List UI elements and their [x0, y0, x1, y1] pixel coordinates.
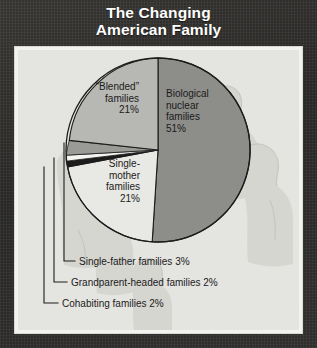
page-title: The Changing American Family	[0, 4, 317, 38]
pie-slice-biological	[152, 58, 250, 242]
callout-label-cohabiting: Cohabiting families 2%	[62, 298, 164, 309]
infographic-poster: The Changing American Family	[0, 0, 317, 348]
pie-label-single-mother: Single- mother families 21%	[62, 158, 140, 204]
pie-label-blended: “Blended” families 21%	[54, 81, 139, 116]
title-line-1: The Changing	[0, 4, 317, 21]
chart-panel-border: Biological nuclear families 51% “Blended…	[15, 47, 302, 333]
callout-label-single-father: Single-father families 3%	[79, 256, 190, 267]
title-line-2: American Family	[0, 21, 317, 38]
callout-label-grandparent: Grandparent-headed families 2%	[71, 277, 218, 288]
pie-label-biological: Biological nuclear families 51%	[166, 88, 209, 134]
chart-panel: Biological nuclear families 51% “Blended…	[18, 50, 299, 330]
